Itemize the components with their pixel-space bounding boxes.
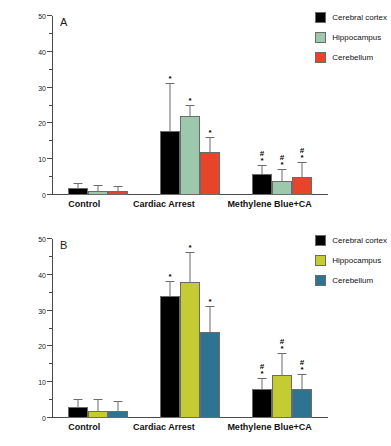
error-bar-cap (298, 162, 307, 163)
significance-marker: #* (300, 359, 304, 373)
bar-slot (88, 16, 108, 195)
panel-b-bar-groups: ***#*#*#* (52, 239, 328, 418)
bar-slot: * (180, 16, 200, 195)
y-tick-label: 10 (38, 156, 46, 163)
bar[interactable] (88, 191, 108, 195)
chart-panel-a: HO-1 +Cell Nr. LM A 01020304050 ***#*#*#… (0, 0, 391, 223)
bar-slot: #* (292, 16, 312, 195)
panel-b-legend: Cerebral cortexHippocampusCerebellum (315, 235, 387, 286)
significance-glyph: * (300, 154, 303, 161)
error-bar-cap (186, 105, 195, 106)
significance-glyph: * (188, 97, 191, 104)
bar-slot: * (200, 16, 220, 195)
error-bar-cap (258, 165, 267, 166)
error-bar-cap (94, 399, 103, 400)
legend-swatch-icon (315, 52, 326, 63)
significance-glyph: * (208, 129, 211, 136)
legend-label: Hippocampus (332, 256, 381, 265)
legend-item[interactable]: Cerebellum (315, 275, 387, 286)
bar[interactable] (200, 152, 220, 195)
error-bar-cap (94, 185, 103, 186)
bar-slot (68, 239, 88, 418)
bar-slot: #* (252, 239, 272, 418)
error-bar-cap (166, 83, 175, 84)
bar-group: #*#*#* (252, 16, 312, 195)
panel-b-x-labels: ControlCardiac ArrestMethylene Blue+CA (52, 422, 328, 432)
bar[interactable] (292, 177, 312, 195)
error-bar-cap (278, 169, 287, 170)
bar-group (68, 16, 128, 195)
bar-slot (68, 16, 88, 195)
bar[interactable] (272, 181, 292, 195)
panel-a-x-labels: ControlCardiac ArrestMethylene Blue+CA (52, 199, 328, 209)
legend-swatch-icon (315, 255, 326, 266)
bar[interactable] (68, 407, 88, 418)
panel-a-plot-area: 01020304050 ***#*#*#* (52, 16, 328, 195)
bar[interactable] (108, 191, 128, 195)
legend-item[interactable]: Cerebral cortex (315, 12, 387, 23)
y-tick-label: 20 (38, 343, 46, 350)
x-axis-label: Cardiac Arrest (133, 422, 195, 432)
bar[interactable] (252, 389, 272, 418)
x-axis-label: Control (68, 199, 100, 209)
bar-slot: #* (252, 16, 272, 195)
legend-swatch-icon (315, 235, 326, 246)
bar-slot: * (180, 239, 200, 418)
bar-slot (108, 239, 128, 418)
legend-item[interactable]: Hippocampus (315, 32, 387, 43)
significance-glyph: * (208, 298, 211, 305)
error-bar-cap (278, 353, 287, 354)
bar[interactable] (160, 296, 180, 418)
bar[interactable] (88, 411, 108, 418)
significance-glyph: * (260, 157, 263, 164)
bar[interactable] (272, 375, 292, 418)
error-bar-cap (114, 186, 123, 187)
error-bar-cap (114, 401, 123, 402)
y-tick-label: 10 (38, 379, 46, 386)
y-tick-label: 0 (42, 415, 46, 422)
significance-glyph: * (260, 370, 263, 377)
y-tick-label: 30 (38, 84, 46, 91)
bar-slot: * (160, 16, 180, 195)
bar-slot: #* (272, 239, 292, 418)
legend-item[interactable]: Hippocampus (315, 255, 387, 266)
error-bar-cap (74, 399, 83, 400)
bar[interactable] (252, 174, 272, 195)
y-tick-label: 40 (38, 271, 46, 278)
y-tick-label: 40 (38, 48, 46, 55)
chart-panel-b: HO-2 +Cell Nr. LM B 01020304050 ***#*#*#… (0, 223, 391, 446)
legend-swatch-icon (315, 32, 326, 43)
y-tick-label: 50 (38, 236, 46, 243)
bar[interactable] (160, 131, 180, 195)
bar-slot (108, 16, 128, 195)
significance-marker: #* (300, 147, 304, 161)
error-bar-cap (298, 374, 307, 375)
significance-marker: #* (280, 154, 284, 168)
significance-marker: * (208, 298, 211, 305)
bar[interactable] (200, 332, 220, 418)
legend-label: Cerebral cortex (332, 13, 387, 22)
bar-slot (88, 239, 108, 418)
bar[interactable] (292, 389, 312, 418)
x-axis-label: Methylene Blue+CA (227, 422, 311, 432)
panel-a-legend: Cerebral cortexHippocampusCerebellum (315, 12, 387, 63)
legend-item[interactable]: Cerebral cortex (315, 235, 387, 246)
bar[interactable] (180, 282, 200, 418)
panel-b-y-axis-title: HO-2 +Cell Nr. LM (0, 293, 1, 377)
bar[interactable] (108, 411, 128, 418)
bar-group: *** (160, 239, 220, 418)
bar[interactable] (68, 188, 88, 195)
x-axis-label: Methylene Blue+CA (227, 199, 311, 209)
significance-marker: * (168, 273, 171, 280)
y-tick-label: 20 (38, 120, 46, 127)
significance-marker: #* (260, 363, 264, 377)
bar-slot: #* (292, 239, 312, 418)
bar[interactable] (180, 116, 200, 195)
legend-label: Cerebellum (332, 53, 373, 62)
legend-item[interactable]: Cerebellum (315, 52, 387, 63)
panel-a-bar-groups: ***#*#*#* (52, 16, 328, 195)
error-bar-cap (206, 306, 215, 307)
error-bar-cap (186, 252, 195, 253)
significance-marker: * (188, 244, 191, 251)
significance-glyph: * (168, 75, 171, 82)
